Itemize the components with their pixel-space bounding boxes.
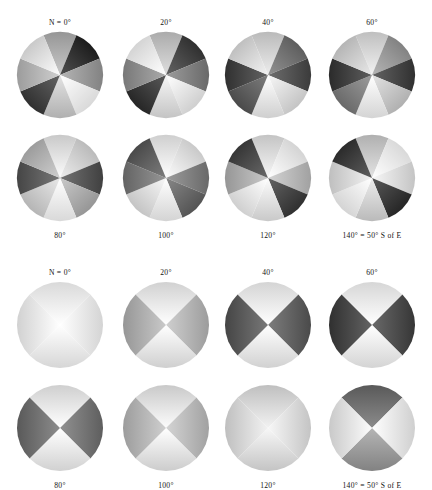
disc <box>120 132 212 224</box>
angle-label: 100° <box>112 481 220 490</box>
disc-svg <box>120 29 212 121</box>
angle-label: 20° <box>112 18 220 27</box>
disc <box>326 382 418 474</box>
disc-cell: 60° <box>318 268 426 380</box>
panel-four-sector-discs: N = 0° 20° 40° 60° 80° 10 <box>0 250 432 486</box>
disc <box>326 29 418 121</box>
disc-cell: N = 0° <box>6 18 114 130</box>
disc <box>14 382 106 474</box>
disc-svg <box>14 382 106 474</box>
disc-svg <box>326 132 418 224</box>
disc-row-lower-top: N = 0° 20° 40° 60° <box>0 268 432 380</box>
disc-svg <box>222 29 314 121</box>
disc <box>222 132 314 224</box>
disc-cell: 80° <box>6 378 114 490</box>
disc <box>120 382 212 474</box>
disc-cell: 40° <box>214 18 322 130</box>
disc-cell: 20° <box>112 268 220 380</box>
disc-cell: 140° = 50° S of E <box>318 128 426 240</box>
disc-cell: 120° <box>214 378 322 490</box>
disc-svg <box>120 279 212 371</box>
disc <box>14 132 106 224</box>
disc-svg <box>120 132 212 224</box>
angle-label: 140° = 50° S of E <box>304 481 432 490</box>
angle-label: N = 0° <box>6 268 114 277</box>
angle-label: 20° <box>112 268 220 277</box>
disc-cell: 80° <box>6 128 114 240</box>
panel-eight-sector-discs: N = 0° 20° 40° 60° 80° 10 <box>0 0 432 248</box>
angle-label: 60° <box>318 18 426 27</box>
disc <box>222 279 314 371</box>
angle-label: 40° <box>214 268 322 277</box>
angle-label: 60° <box>318 268 426 277</box>
disc <box>222 382 314 474</box>
disc-cell: 40° <box>214 268 322 380</box>
angle-label: N = 0° <box>6 18 114 27</box>
disc-svg <box>14 279 106 371</box>
disc-row-upper-bottom: 80° 100° 120° 140° = 50° S of E <box>0 128 432 240</box>
angle-label: 80° <box>6 481 114 490</box>
disc-svg <box>14 132 106 224</box>
disc-svg <box>14 29 106 121</box>
disc-svg <box>326 382 418 474</box>
disc-cell: N = 0° <box>6 268 114 380</box>
disc-svg <box>222 382 314 474</box>
disc <box>120 29 212 121</box>
disc <box>120 279 212 371</box>
disc-cell: 20° <box>112 18 220 130</box>
angle-label: 40° <box>214 18 322 27</box>
disc-svg <box>326 279 418 371</box>
disc-row-upper-top: N = 0° 20° 40° 60° <box>0 18 432 130</box>
disc-svg <box>120 382 212 474</box>
disc <box>222 29 314 121</box>
angle-label: 100° <box>112 231 220 240</box>
angle-label: 80° <box>6 231 114 240</box>
disc <box>14 29 106 121</box>
disc-cell: 140° = 50° S of E <box>318 378 426 490</box>
disc-svg <box>326 29 418 121</box>
disc <box>326 279 418 371</box>
disc <box>14 279 106 371</box>
disc <box>326 132 418 224</box>
angle-label: 140° = 50° S of E <box>304 231 432 240</box>
disc-svg <box>222 132 314 224</box>
disc-cell: 60° <box>318 18 426 130</box>
disc-cell: 100° <box>112 128 220 240</box>
disc-cell: 100° <box>112 378 220 490</box>
disc-svg <box>222 279 314 371</box>
disc-row-lower-bottom: 80° 100° 120° 140° = 50° S of E <box>0 378 432 490</box>
disc-cell: 120° <box>214 128 322 240</box>
